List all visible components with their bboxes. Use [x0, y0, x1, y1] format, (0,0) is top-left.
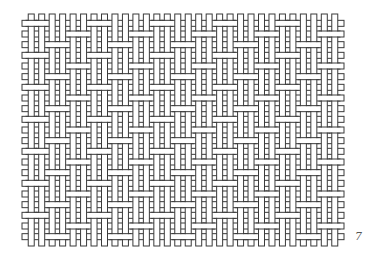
page-number: 7	[355, 230, 362, 243]
weave-pattern-figure	[0, 0, 367, 255]
